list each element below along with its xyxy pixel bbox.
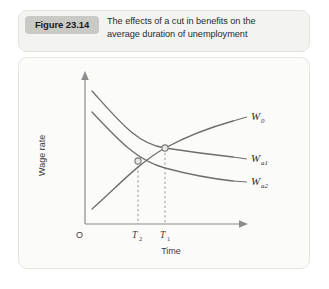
x-tick-T2-text: T [132,230,138,240]
curve-label-Wa1-subscript: a1 [261,159,268,166]
y-axis [81,71,89,224]
x-tick-T1-subscript: 1 [167,235,170,242]
chart-panel: Wage rate Time O T 2 T [18,57,310,269]
x-axis-label: Time [161,246,181,256]
x-tick-T1-text: T [160,230,166,240]
x-tick-T2: T 2 [132,230,142,242]
figure-container: Figure 23.14 The effects of a cut in ben… [0,0,329,289]
chart-svg: Wage rate Time O T 2 T [19,58,310,269]
figure-caption-line-2: average duration of unemployment [107,28,305,41]
x-tick-T1: T 1 [160,230,170,242]
intersection-marker-T2 [135,158,141,164]
x-axis [85,220,248,228]
curve-label-Wa2: W a2 [251,175,268,189]
curve-label-Wa1: W a1 [251,152,268,166]
curve-label-W0-text: W [251,110,261,122]
curve-label-W0-subscript: 0 [261,117,265,124]
curve-label-Wa2-subscript: a2 [261,182,268,189]
origin-label: O [76,230,83,240]
figure-title-bar: Figure 23.14 The effects of a cut in ben… [18,10,310,52]
figure-caption-line-1: The effects of a cut in benefits on the [107,15,305,28]
intersection-marker-T1 [162,145,168,151]
leader-Wa1 [233,157,247,159]
x-tick-T2-subscript: 2 [139,235,142,242]
curve-label-W0: W 0 [251,110,265,124]
figure-number-badge: Figure 23.14 [25,16,99,34]
leader-W0 [233,117,247,121]
y-axis-label: Wage rate [37,135,47,176]
curve-label-Wa1-text: W [251,152,261,164]
leader-Wa2 [233,181,247,182]
figure-caption: The effects of a cut in benefits on the … [107,15,305,40]
curve-label-Wa2-text: W [251,175,261,187]
